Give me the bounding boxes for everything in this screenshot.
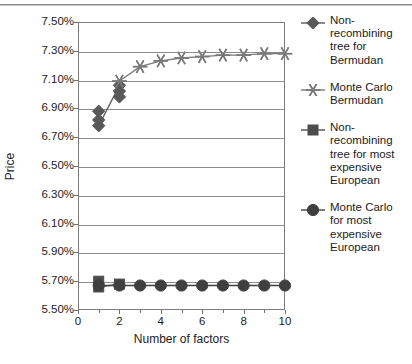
x-tick-mark-minor xyxy=(223,310,224,313)
legend-item-nonrecombining-tree-bermudan[interactable]: Non-recombining tree for Bermudan xyxy=(300,14,408,67)
x-axis-title: Number of factors xyxy=(78,333,285,346)
circle-marker-icon xyxy=(300,202,326,214)
star-marker-icon xyxy=(300,82,326,94)
x-tick-label: 10 xyxy=(270,315,300,327)
legend-item-label: Non-recombining tree for most expensive … xyxy=(330,121,408,187)
x-tick-mark-minor xyxy=(264,310,265,313)
y-axis-title: Price xyxy=(4,132,17,202)
chart-figure: 7.50%7.30%7.10%6.90%6.70%6.50%6.30%6.10%… xyxy=(0,0,412,364)
square-marker-icon xyxy=(300,122,326,134)
x-tick-mark xyxy=(161,310,162,314)
x-tick-label: 2 xyxy=(104,315,134,327)
legend-item-label: Non-recombining tree for Bermudan xyxy=(330,14,408,67)
x-tick-mark-minor xyxy=(140,310,141,313)
x-tick-label: 4 xyxy=(146,315,176,327)
legend-item-monte-carlo-bermudan[interactable]: Monte Carlo Bermudan xyxy=(300,81,408,107)
legend-item-label: Monte Carlo for most expensive European xyxy=(330,201,408,254)
x-tick-mark xyxy=(202,310,203,314)
chart-legend: Non-recombining tree for Bermudan Monte … xyxy=(300,14,408,268)
x-tick-label: 6 xyxy=(187,315,217,327)
x-tick-mark-minor xyxy=(182,310,183,313)
x-tick-label: 0 xyxy=(63,315,93,327)
x-tick-mark xyxy=(285,310,286,314)
x-tick-mark-minor xyxy=(99,310,100,313)
x-tick-label: 8 xyxy=(229,315,259,327)
legend-item-label: Monte Carlo Bermudan xyxy=(330,81,408,107)
x-tick-mark xyxy=(78,310,79,314)
legend-item-monte-carlo-european[interactable]: Monte Carlo for most expensive European xyxy=(300,201,408,254)
legend-item-nonrecombining-tree-european[interactable]: Non-recombining tree for most expensive … xyxy=(300,121,408,187)
x-tick-mark xyxy=(244,310,245,314)
diamond-marker-icon xyxy=(300,15,326,27)
x-tick-mark xyxy=(119,310,120,314)
